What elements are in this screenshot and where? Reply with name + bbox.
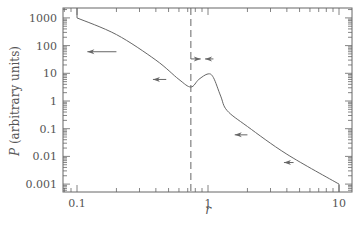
arrow-right-icon <box>191 56 201 61</box>
y-axis-label: P (arbitrary units) <box>8 46 22 157</box>
y-tick-label: 100 <box>36 40 57 53</box>
y-tick-label: 0.001 <box>26 178 58 191</box>
arrow-left-icon <box>205 56 213 61</box>
arrow-left-icon <box>153 77 166 82</box>
y-tick-label: 10 <box>43 67 57 80</box>
x-tick-label: 10 <box>332 197 346 210</box>
data-series <box>77 8 339 192</box>
arrow-left-icon <box>87 49 116 54</box>
y-tick-label: 0.01 <box>33 150 58 163</box>
axis-tick-labels: 0.111010001001010.10.010.001 <box>26 12 347 210</box>
x-tick-label: 0.1 <box>68 197 86 210</box>
chart: 0.111010001001010.10.010.001 r P (arbitr… <box>0 0 363 227</box>
y-tick-label: 1000 <box>29 12 57 25</box>
arrow-left-icon <box>235 132 248 137</box>
y-tick-label: 0.1 <box>40 123 58 136</box>
axis-ticks <box>63 8 352 192</box>
plot-frame <box>63 8 352 192</box>
arrow-left-icon <box>284 160 294 165</box>
series-line <box>77 8 339 192</box>
y-tick-label: 1 <box>50 95 57 108</box>
